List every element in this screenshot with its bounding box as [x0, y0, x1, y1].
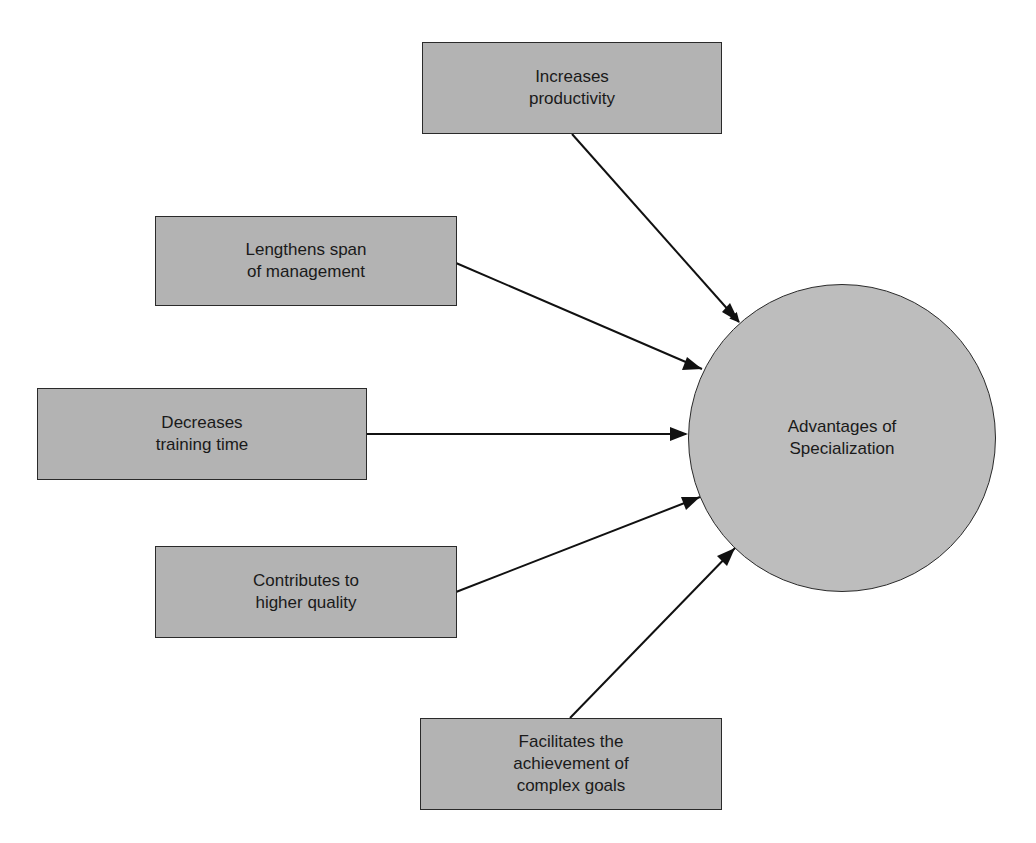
- factor-box-higher-quality: Contributes to higher quality: [155, 546, 457, 638]
- factor-label: Increases productivity: [529, 66, 615, 110]
- arrowhead-icon: [681, 497, 700, 510]
- factor-box-span-of-management: Lengthens span of management: [155, 216, 457, 306]
- center-label: Advantages of Specialization: [788, 416, 897, 460]
- arrow-complex-goals: [570, 548, 735, 718]
- factor-label: Contributes to higher quality: [253, 570, 359, 614]
- factor-label: Decreases training time: [156, 412, 249, 456]
- factor-label: Lengthens span of management: [246, 239, 367, 283]
- arrow-span-of-management: [456, 263, 702, 369]
- arrowhead-icon: [682, 357, 702, 370]
- factor-label: Facilitates the achievement of complex g…: [513, 731, 628, 797]
- arrowhead-icon: [670, 427, 688, 441]
- factor-box-training-time: Decreases training time: [37, 388, 367, 480]
- arrow-higher-quality: [456, 497, 700, 592]
- center-node-advantages: Advantages of Specialization: [688, 284, 996, 592]
- factor-box-productivity: Increases productivity: [422, 42, 722, 134]
- arrow-productivity: [572, 134, 739, 322]
- factor-box-complex-goals: Facilitates the achievement of complex g…: [420, 718, 722, 810]
